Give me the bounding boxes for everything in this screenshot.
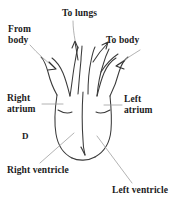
leader-left-ventricle <box>97 136 132 183</box>
ventricle-apex <box>72 157 95 160</box>
label-right-atrium-line2: atrium <box>7 104 36 114</box>
label-left-atrium-line1: Left <box>124 94 141 104</box>
ventricle-left-wall <box>55 95 72 158</box>
ventricle-septum <box>82 92 85 155</box>
right-atrium-base <box>58 110 72 113</box>
left-atrium-outline <box>110 57 128 96</box>
vessel-right-inner <box>88 47 95 94</box>
arrowhead-to-body <box>116 61 124 69</box>
label-right-atrium-line1: Right <box>7 93 30 103</box>
flow-arrows <box>72 41 118 72</box>
figure-marker: D <box>22 131 29 142</box>
left-atrium-base <box>96 110 110 113</box>
heart-outline <box>55 92 112 160</box>
label-from-body-line2: body <box>8 35 28 45</box>
label-left-atrium-line2: atrium <box>124 105 153 115</box>
great-vessels <box>70 46 109 96</box>
label-right-atrium: Rightatrium <box>7 93 36 114</box>
leader-to-lungs <box>73 21 75 40</box>
label-right-ventricle: Right ventricle <box>7 165 69 176</box>
label-to-lungs: To lungs <box>62 8 97 19</box>
diagram-canvas: To lungs Frombody To body Rightatrium Le… <box>0 0 174 202</box>
label-to-body: To body <box>106 35 139 46</box>
label-left-ventricle: Left ventricle <box>112 185 168 196</box>
label-left-atrium: Leftatrium <box>124 94 153 115</box>
vessel-left-inner <box>78 46 82 94</box>
label-from-body: Frombody <box>8 24 31 45</box>
label-from-body-line1: From <box>8 24 31 34</box>
